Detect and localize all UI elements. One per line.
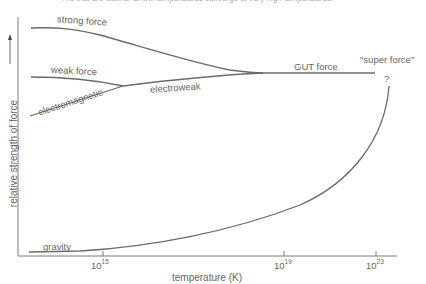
gut-force-label: GUT force — [294, 62, 338, 72]
super-force-label: "super force" — [360, 55, 414, 65]
x-tick-1e23: 1023 — [366, 261, 384, 271]
weak-force-label: weak force — [51, 65, 97, 77]
gravity-line — [29, 86, 389, 252]
weak-force-line — [31, 77, 123, 86]
gravity-label: gravity — [43, 242, 71, 252]
x-axis-label: temperature (K) — [172, 273, 242, 283]
y-axis-label: relative strength of force — [8, 79, 19, 229]
question-mark-label: ? — [384, 74, 389, 84]
x-tick-1e15: 1015 — [91, 261, 109, 271]
x-tick-1e19: 1019 — [274, 261, 292, 271]
